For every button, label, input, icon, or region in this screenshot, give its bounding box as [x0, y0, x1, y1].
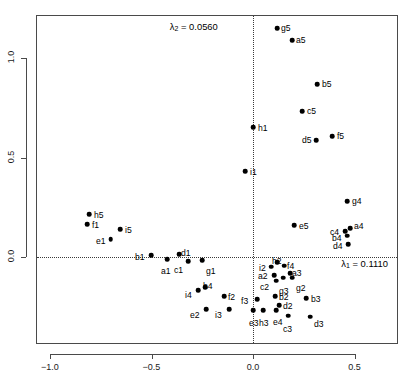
data-point: [251, 308, 256, 313]
data-point: [282, 263, 287, 268]
data-point: [149, 253, 154, 258]
data-point-label: d5: [302, 136, 312, 145]
data-point: [277, 303, 282, 308]
y-tick-label: 0.0: [6, 245, 16, 267]
data-point: [273, 294, 278, 299]
data-point-label: e3: [249, 319, 259, 328]
data-point: [255, 297, 260, 302]
data-point: [346, 242, 351, 247]
plot-frame: [36, 15, 398, 344]
data-point-label: a2: [258, 272, 268, 281]
data-point: [304, 296, 309, 301]
data-point-label: i5: [125, 226, 132, 235]
data-point: [300, 109, 305, 114]
data-point-label: i3: [215, 311, 222, 320]
data-point-label: g1: [206, 267, 216, 276]
y-axis-line: [26, 58, 27, 257]
data-point-label: h2: [272, 257, 282, 266]
data-point: [286, 314, 291, 319]
data-point-label: c3: [283, 325, 292, 334]
data-point: [274, 308, 279, 313]
data-point-label: i1: [250, 168, 257, 177]
data-point-label: h3: [259, 319, 269, 328]
data-point: [308, 315, 313, 320]
data-point-label: e5: [299, 222, 309, 231]
x-tick: [253, 354, 254, 359]
data-point-label: i4: [185, 291, 192, 300]
data-point-label: a5: [296, 36, 306, 45]
data-point-label: g2: [296, 284, 306, 293]
lambda1-annotation: λ1 = 0.1110: [341, 258, 388, 269]
x-tick: [355, 354, 356, 359]
data-point: [314, 138, 319, 143]
data-point: [345, 234, 350, 239]
x-tick-label: −0.5: [143, 362, 161, 372]
data-point-label: d4: [333, 242, 343, 251]
data-point-label: f3: [241, 297, 248, 306]
data-point-label: b5: [322, 80, 332, 89]
data-point-label: a1: [161, 267, 171, 276]
data-point: [290, 38, 295, 43]
data-point-label: f2: [228, 293, 235, 302]
data-point: [275, 26, 280, 31]
data-point-label: g4: [352, 197, 362, 206]
data-point-label: c1: [174, 266, 183, 275]
x-tick: [50, 354, 51, 359]
data-point: [251, 125, 256, 130]
data-point: [109, 237, 114, 242]
data-point-label: f5: [337, 132, 344, 141]
data-point: [261, 308, 266, 313]
data-point-label: d3: [314, 320, 324, 329]
data-point: [290, 276, 295, 281]
data-point: [330, 134, 335, 139]
reference-line-vertical: [253, 16, 254, 343]
data-point: [243, 169, 248, 174]
x-tick-label: −1.0: [41, 362, 59, 372]
y-tick-label: 0.5: [6, 146, 16, 168]
x-tick-label: 0.0: [247, 362, 260, 372]
data-point-label: b3: [311, 295, 321, 304]
x-tick-label: 0.5: [348, 362, 361, 372]
data-point-label: d2: [283, 302, 293, 311]
data-point: [196, 288, 201, 293]
y-tick: [21, 58, 26, 59]
data-point: [87, 212, 92, 217]
data-point-label: c2: [260, 283, 269, 292]
data-point: [227, 307, 232, 312]
data-point-label: a4: [354, 222, 364, 231]
lambda2-annotation: λ2 = 0.0560: [170, 21, 218, 32]
data-point: [272, 273, 277, 278]
y-tick: [21, 257, 26, 258]
x-axis-line: [50, 354, 355, 355]
data-point: [200, 258, 205, 263]
data-point-label: b1: [135, 253, 145, 262]
data-point-label: f1: [92, 221, 99, 230]
y-tick-label: 1.0: [6, 46, 16, 68]
data-point: [345, 199, 350, 204]
data-point: [118, 227, 123, 232]
x-tick: [152, 354, 153, 359]
y-tick: [21, 158, 26, 159]
data-point: [315, 82, 320, 87]
data-point: [165, 257, 170, 262]
data-point: [222, 294, 227, 299]
data-point: [186, 259, 191, 264]
data-point: [269, 264, 274, 269]
data-point-label: g5: [281, 24, 291, 33]
data-point-label: h1: [258, 124, 268, 133]
data-point: [204, 307, 209, 312]
data-point: [292, 223, 297, 228]
data-point-label: d1: [181, 249, 191, 258]
data-point: [274, 279, 279, 284]
data-point: [281, 276, 286, 281]
data-point-label: e1: [96, 237, 106, 246]
data-point-label: e2: [190, 311, 200, 320]
data-point-label: h4: [203, 282, 213, 291]
data-point-label: c5: [307, 107, 316, 116]
data-point: [348, 226, 353, 231]
scatter-plot-figure: −1.0−0.50.00.5 0.00.51.0 g5a5b5c5f5d5h1i…: [0, 0, 416, 378]
data-point-label: e4: [273, 318, 283, 327]
data-point: [343, 229, 348, 234]
data-point-label: h5: [94, 211, 104, 220]
data-point: [85, 222, 90, 227]
